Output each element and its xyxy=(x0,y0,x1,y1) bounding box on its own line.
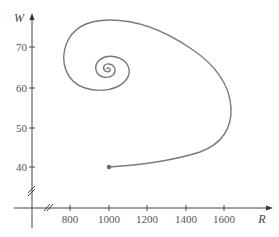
x-axis-arrow-icon xyxy=(266,206,273,211)
x-tick-label: 1000 xyxy=(98,213,121,225)
x-tick-label: 800 xyxy=(62,213,79,225)
trajectory-curve xyxy=(64,20,231,167)
x-axis-title: R xyxy=(257,212,266,226)
y-axis-title: W xyxy=(14,11,25,25)
y-tick-label: 40 xyxy=(16,161,28,173)
y-axis-arrow-icon xyxy=(30,13,35,20)
x-tick-label: 1400 xyxy=(175,213,198,225)
y-tick-label: 50 xyxy=(16,122,28,134)
y-tick-label: 60 xyxy=(16,82,28,94)
y-tick-label: 70 xyxy=(16,41,28,53)
x-tick-label: 1600 xyxy=(213,213,236,225)
phase-plot: 70 60 50 40 800 1000 1200 1400 1600 W R xyxy=(0,0,279,237)
start-point-marker xyxy=(107,165,111,169)
x-tick-label: 1200 xyxy=(136,213,159,225)
